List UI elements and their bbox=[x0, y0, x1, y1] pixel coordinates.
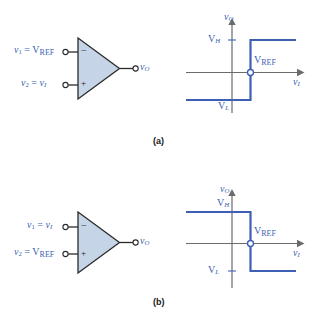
threshold-label-a: VREF bbox=[254, 55, 276, 67]
opamp-inverting-sign-b: − bbox=[81, 221, 87, 231]
y-axis-label-a: vO bbox=[224, 12, 233, 23]
level-low-label-a: VL bbox=[218, 101, 229, 112]
transfer-curve-b bbox=[186, 212, 296, 271]
figure-root: − + v1 = VREF v2 = vI vO vO vI VH VL VRE… bbox=[0, 0, 317, 315]
x-axis-arrowhead-b bbox=[297, 240, 305, 247]
input-terminal-node-bottom-b bbox=[63, 251, 68, 256]
caption-a: (a) bbox=[153, 136, 164, 146]
output-terminal-node-b bbox=[133, 240, 138, 245]
opamp-noninverting-sign-a: + bbox=[81, 79, 86, 88]
x-axis-label-a: vI bbox=[293, 77, 300, 88]
level-high-label-a: VH bbox=[208, 34, 220, 45]
level-low-label-b: VL bbox=[208, 265, 219, 276]
input-label-bottom-b: v2 = VREF bbox=[14, 247, 54, 259]
transfer-curve-a bbox=[186, 40, 296, 100]
panel-a-circuit bbox=[63, 38, 138, 99]
opamp-inverting-sign-a: − bbox=[81, 46, 87, 56]
threshold-marker-a bbox=[248, 70, 254, 76]
caption-b: (b) bbox=[153, 297, 165, 307]
input-terminal-node-top-a bbox=[63, 49, 68, 54]
input-label-bottom-a: v2 = vI bbox=[21, 78, 46, 89]
y-axis-arrowhead-b bbox=[228, 189, 235, 196]
x-axis-arrowhead-a bbox=[297, 69, 305, 76]
input-terminal-node-top-b bbox=[63, 224, 68, 229]
x-axis-label-b: vI bbox=[293, 248, 300, 259]
threshold-label-b: VREF bbox=[254, 226, 276, 238]
output-label-a: vO bbox=[140, 62, 149, 73]
output-label-b: vO bbox=[140, 236, 149, 247]
panel-a-graph bbox=[186, 18, 305, 113]
level-high-label-b: VH bbox=[217, 198, 229, 209]
threshold-marker-b bbox=[248, 241, 254, 247]
opamp-noninverting-sign-b: + bbox=[81, 249, 86, 258]
output-terminal-node-a bbox=[133, 66, 138, 71]
input-label-top-b: v1 = vI bbox=[27, 220, 52, 231]
y-axis-label-b: vO bbox=[220, 184, 229, 195]
panel-b-circuit bbox=[63, 212, 138, 273]
input-terminal-node-bottom-a bbox=[63, 82, 68, 87]
panel-b-graph bbox=[186, 189, 305, 288]
input-label-top-a: v1 = VREF bbox=[14, 45, 54, 57]
